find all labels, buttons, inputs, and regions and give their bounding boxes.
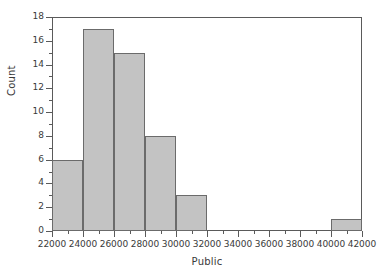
x-axis-minor-tick: [347, 231, 348, 234]
x-axis-tick: [207, 231, 208, 237]
x-axis-minor-tick: [316, 231, 317, 234]
y-axis-minor-tick: [49, 148, 52, 149]
y-axis-tick: [46, 207, 52, 208]
y-axis-tick-label: 6: [4, 155, 44, 164]
y-axis-minor-tick: [49, 29, 52, 30]
y-axis-minor-tick: [49, 100, 52, 101]
x-axis-minor-tick: [130, 231, 131, 234]
y-axis-tick: [46, 160, 52, 161]
y-axis-tick-label: 8: [4, 131, 44, 140]
x-axis-tick: [238, 231, 239, 237]
y-axis-minor-tick: [49, 124, 52, 125]
y-axis-tick-label: 18: [4, 12, 44, 21]
x-axis-minor-tick: [99, 231, 100, 234]
y-axis-tick: [46, 112, 52, 113]
x-axis-tick: [331, 231, 332, 237]
y-axis-minor-tick: [49, 53, 52, 54]
y-axis-tick: [46, 41, 52, 42]
x-axis-minor-tick: [68, 231, 69, 234]
x-axis-minor-tick: [161, 231, 162, 234]
x-axis-tick: [145, 231, 146, 237]
histogram-bar: [145, 136, 176, 231]
y-axis-tick-label: 16: [4, 36, 44, 45]
histogram-bar: [83, 29, 114, 231]
y-axis-title: Count: [6, 65, 17, 96]
x-axis-tick: [176, 231, 177, 237]
y-axis-tick-labels: 024681012141618: [0, 0, 44, 276]
histogram-bar: [52, 160, 83, 231]
y-axis-minor-tick: [49, 195, 52, 196]
y-axis-minor-tick: [49, 172, 52, 173]
y-axis-minor-tick: [49, 76, 52, 77]
x-axis-tick: [83, 231, 84, 237]
x-axis-tick: [300, 231, 301, 237]
x-axis-minor-tick: [285, 231, 286, 234]
x-axis-tick: [114, 231, 115, 237]
y-axis-tick: [46, 136, 52, 137]
x-axis-tick: [269, 231, 270, 237]
y-axis-tick: [46, 65, 52, 66]
x-axis-title: Public: [52, 256, 362, 267]
histogram-bar: [114, 53, 145, 231]
x-axis-tick-label: 42000: [340, 239, 381, 249]
histogram-bar: [176, 195, 207, 231]
x-axis-minor-tick: [254, 231, 255, 234]
y-axis-tick: [46, 17, 52, 18]
y-axis-tick: [46, 88, 52, 89]
x-axis-tick: [52, 231, 53, 237]
x-axis-minor-tick: [223, 231, 224, 234]
bars-layer: [52, 17, 362, 231]
histogram-bar: [331, 219, 362, 231]
y-axis-tick-label: 10: [4, 107, 44, 116]
y-axis-tick-label: 0: [4, 226, 44, 235]
y-axis-tick-label: 2: [4, 202, 44, 211]
x-axis-tick: [362, 231, 363, 237]
x-axis-minor-tick: [192, 231, 193, 234]
y-axis-minor-tick: [49, 219, 52, 220]
y-axis-tick-label: 4: [4, 178, 44, 187]
y-axis-tick: [46, 183, 52, 184]
